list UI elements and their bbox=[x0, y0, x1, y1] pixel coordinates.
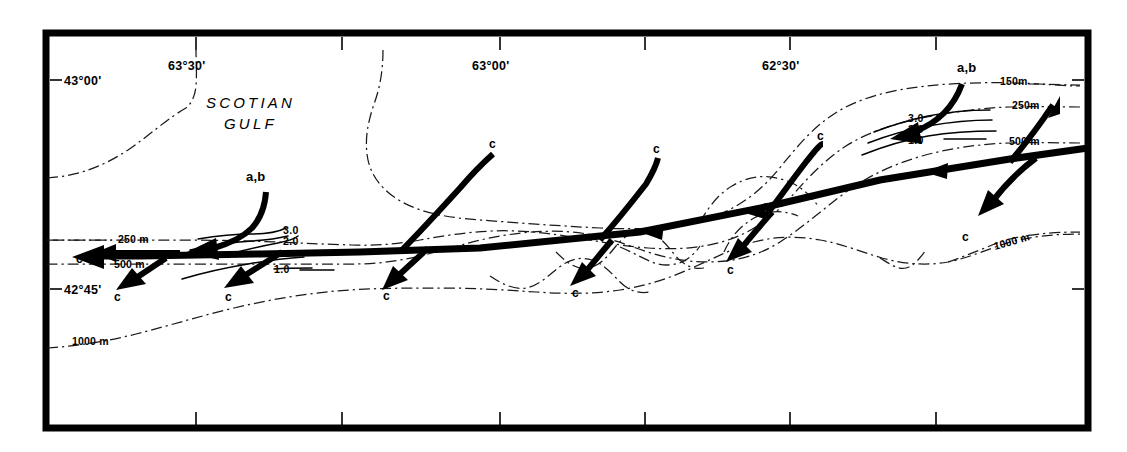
station-label-c-2: c bbox=[114, 290, 121, 304]
isotach-label-1-0-east: 1.0 bbox=[908, 134, 924, 146]
latitude-label-42-45: 42°45' bbox=[64, 283, 102, 297]
longitude-label-63-00: 63°00' bbox=[472, 59, 510, 73]
station-label-c-1: c bbox=[76, 252, 83, 266]
depth-label-1000m-west: 1000 m bbox=[72, 335, 109, 347]
depth-label-250m-east: 250m bbox=[1012, 99, 1040, 111]
isotach-label-2-0-west: 2.0 bbox=[283, 235, 299, 247]
station-label-ab-west: a,b bbox=[246, 169, 265, 184]
station-label-c-5: c bbox=[572, 286, 579, 300]
station-label-c-8: c bbox=[489, 137, 496, 151]
depth-label-500m-west: 500 m bbox=[114, 258, 145, 270]
station-label-c-4: c bbox=[383, 289, 390, 303]
depth-label-150m-east: 150m bbox=[1000, 75, 1028, 87]
station-label-c-3: c bbox=[225, 290, 232, 304]
map-figure: SCOTIANGULF 63°30' 63°00' 62°30' 43°00' … bbox=[0, 0, 1127, 452]
longitude-label-62-30: 62°30' bbox=[762, 59, 800, 73]
longitude-label-63-30: 63°30' bbox=[168, 59, 206, 73]
latitude-label-43-00: 43°00' bbox=[64, 74, 102, 88]
scotian-gulf-current-map: SCOTIANGULF 63°30' 63°00' 62°30' 43°00' … bbox=[0, 0, 1127, 452]
isotach-label-1-0-west: 1.0 bbox=[274, 263, 290, 275]
station-label-ab-east: a,b bbox=[957, 60, 976, 75]
station-label-c-10: c bbox=[817, 129, 824, 143]
depth-label-250m-west: 250 m bbox=[118, 233, 149, 245]
station-label-c-6: c bbox=[727, 263, 734, 277]
depth-label-500m-east: 500 m bbox=[1009, 135, 1040, 147]
station-label-c-9: c bbox=[653, 142, 660, 156]
station-label-c-7: c bbox=[962, 230, 969, 244]
